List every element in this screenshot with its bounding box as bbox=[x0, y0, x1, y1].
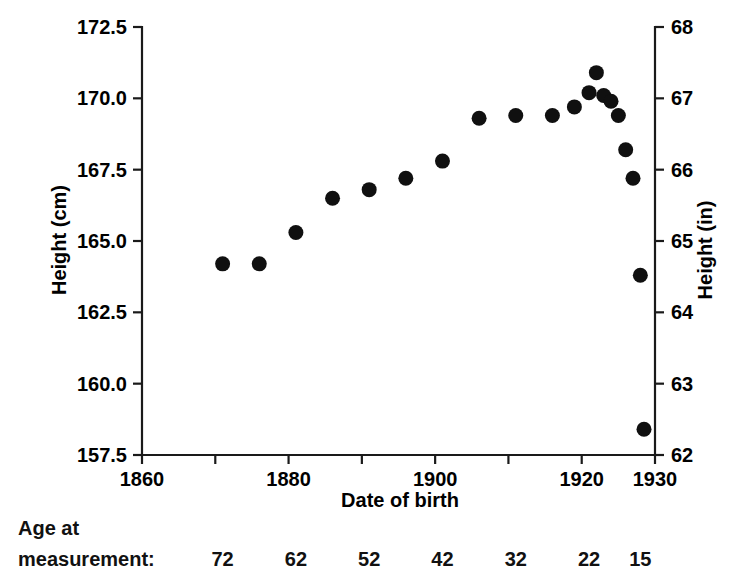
data-point bbox=[362, 182, 377, 197]
scatter-plot-canvas: 157.5160.0162.5165.0167.5170.0172.5 6263… bbox=[0, 0, 731, 584]
age-value-label: 72 bbox=[211, 548, 233, 570]
data-point bbox=[589, 65, 604, 80]
right-tick-label: 66 bbox=[671, 159, 693, 181]
right-tick-label: 67 bbox=[671, 87, 693, 109]
data-point bbox=[637, 422, 652, 437]
data-point bbox=[618, 142, 633, 157]
data-point bbox=[398, 171, 413, 186]
age-row-label-line1: Age at bbox=[18, 517, 79, 539]
data-point bbox=[611, 108, 626, 123]
data-point bbox=[508, 108, 523, 123]
age-value-label: 15 bbox=[629, 548, 651, 570]
data-point bbox=[435, 154, 450, 169]
right-tick-label: 64 bbox=[671, 301, 694, 323]
right-tick-label: 63 bbox=[671, 373, 693, 395]
bottom-tick-label: 1900 bbox=[413, 468, 458, 490]
data-point bbox=[582, 85, 597, 100]
x-axis-title: Date of birth bbox=[341, 489, 459, 511]
right-axis-tick-labels: 62636465666768 bbox=[671, 16, 694, 466]
data-point bbox=[567, 99, 582, 114]
left-axis-ticks bbox=[133, 27, 142, 455]
bottom-tick-label: 1920 bbox=[559, 468, 604, 490]
right-tick-label: 62 bbox=[671, 444, 693, 466]
age-value-labels: 72625242322215 bbox=[211, 548, 651, 570]
left-axis-tick-labels: 157.5160.0162.5165.0167.5170.0172.5 bbox=[77, 16, 127, 466]
chart-figure: 157.5160.0162.5165.0167.5170.0172.5 6263… bbox=[0, 0, 731, 584]
right-axis-ticks bbox=[655, 27, 664, 455]
y2-axis-title: Height (in) bbox=[694, 201, 716, 300]
age-value-label: 62 bbox=[285, 548, 307, 570]
age-value-label: 32 bbox=[505, 548, 527, 570]
age-value-label: 52 bbox=[358, 548, 380, 570]
left-tick-label: 167.5 bbox=[77, 159, 127, 181]
left-tick-label: 157.5 bbox=[77, 444, 127, 466]
left-tick-label: 162.5 bbox=[77, 301, 127, 323]
left-tick-label: 165.0 bbox=[77, 230, 127, 252]
bottom-axis-tick-labels: 18601880190019201930 bbox=[120, 468, 678, 490]
right-tick-label: 65 bbox=[671, 230, 693, 252]
data-point bbox=[252, 256, 267, 271]
bottom-tick-label: 1880 bbox=[266, 468, 311, 490]
age-row-label-line2: measurement: bbox=[18, 548, 155, 570]
bottom-axis-ticks bbox=[142, 455, 655, 464]
data-point-series bbox=[215, 65, 651, 437]
age-value-label: 22 bbox=[578, 548, 600, 570]
age-value-label: 42 bbox=[431, 548, 453, 570]
data-point bbox=[472, 111, 487, 126]
left-tick-label: 160.0 bbox=[77, 373, 127, 395]
bottom-tick-label: 1860 bbox=[120, 468, 165, 490]
data-point bbox=[626, 171, 641, 186]
right-tick-label: 68 bbox=[671, 16, 693, 38]
data-point bbox=[215, 256, 230, 271]
data-point bbox=[633, 268, 648, 283]
y-axis-title: Height (cm) bbox=[48, 185, 70, 295]
data-point bbox=[604, 94, 619, 109]
data-point bbox=[545, 108, 560, 123]
left-tick-label: 172.5 bbox=[77, 16, 127, 38]
bottom-tick-label: 1930 bbox=[633, 468, 678, 490]
data-point bbox=[288, 225, 303, 240]
left-tick-label: 170.0 bbox=[77, 87, 127, 109]
data-point bbox=[325, 191, 340, 206]
